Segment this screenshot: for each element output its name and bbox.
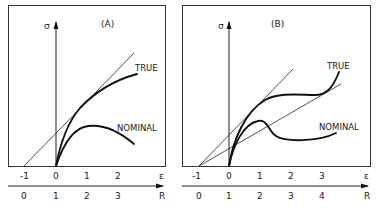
panel-a-r-tick: 3 <box>115 191 121 201</box>
panel-a-epsilon-label: ε <box>159 171 164 181</box>
panel-b-nominal-label: NOMINAL <box>319 122 359 132</box>
panel-b-eps-tick: 1 <box>257 171 263 181</box>
panel-b-r-tick: 0 <box>196 191 202 201</box>
panel-b-r-tick: 1 <box>226 191 232 201</box>
panel-b-true-curve <box>229 72 339 166</box>
panel-b-true-label: TRUE <box>326 61 350 71</box>
panel-a-true-label: TRUE <box>134 63 158 73</box>
panel-a-frame <box>9 6 166 167</box>
panel-a-eps-tick: 1 <box>84 171 90 181</box>
panel-a: σ (A) TRUE NOMINAL -1 0 1 2 ε 0 1 2 3 R <box>8 6 166 202</box>
panel-b-sigma-label: σ <box>218 21 224 31</box>
panel-a-r-tick: 2 <box>84 191 90 201</box>
considere-diagram: σ (A) TRUE NOMINAL -1 0 1 2 ε 0 1 2 3 R … <box>0 0 378 208</box>
panel-b-r-label: R <box>364 191 370 201</box>
panel-a-nominal-label: NOMINAL <box>117 123 157 133</box>
panel-b-eps-tick: 0 <box>226 171 232 181</box>
panel-b-title: (B) <box>271 19 284 29</box>
panel-b: σ (B) TRUE NOMINAL -1 0 1 2 3 ε 0 1 2 3 … <box>182 6 371 202</box>
panel-a-true-curve <box>56 74 137 166</box>
panel-b-eps-tick: 2 <box>288 171 294 181</box>
panel-a-r-tick: 1 <box>53 191 59 201</box>
panel-a-sigma-label: σ <box>44 21 50 31</box>
panel-b-r-tick: 2 <box>257 191 263 201</box>
panel-b-eps-tick: -1 <box>192 171 201 181</box>
panel-a-title: (A) <box>101 19 114 29</box>
panel-a-r-label: R <box>159 191 165 201</box>
panel-a-eps-tick: -1 <box>20 171 29 181</box>
panel-b-r-tick: 4 <box>319 191 325 201</box>
panel-a-eps-tick: 0 <box>53 171 59 181</box>
panel-b-r-tick: 3 <box>288 191 294 201</box>
panel-a-eps-tick: 2 <box>115 171 121 181</box>
panel-a-r-tick: 0 <box>21 191 27 201</box>
panel-b-eps-tick: 3 <box>319 171 325 181</box>
panel-b-epsilon-label: ε <box>364 171 369 181</box>
